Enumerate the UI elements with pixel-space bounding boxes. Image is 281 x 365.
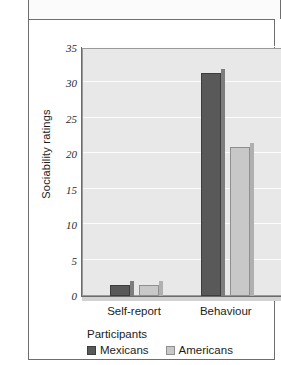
legend-item-americans: Americans (166, 344, 233, 356)
y-axis-tick-label: 20 (51, 149, 77, 160)
bar-side-face (159, 285, 163, 296)
y-axis-tick-label: 30 (51, 78, 77, 89)
legend-entries: MexicansAmericans (87, 344, 272, 356)
gridline (83, 46, 281, 47)
figure-top-strip-fill (29, 0, 280, 19)
bar-body (230, 147, 250, 296)
bar-americans-behaviour (230, 147, 250, 296)
legend-item-mexicans: Mexicans (87, 344, 149, 356)
bar-side-face (250, 147, 254, 296)
bar-body (201, 73, 221, 296)
legend-label-americans: Americans (179, 344, 233, 356)
bar-top-face (130, 281, 134, 285)
bar-side-face (221, 73, 225, 296)
y-axis-tick-label: 15 (51, 185, 77, 196)
y-axis-tick-label: 5 (51, 256, 77, 267)
figure-top-strip (28, 0, 281, 19)
legend-swatch-americans (166, 346, 175, 355)
bar-top-face (250, 143, 254, 147)
bar-body (110, 285, 130, 296)
figure-root: 05101520253035 Sociability ratings Self-… (0, 0, 281, 365)
x-axis-baseline (81, 296, 281, 297)
bar-side-face (130, 285, 134, 296)
bar-americans-self-report (139, 285, 159, 296)
y-axis-tick-label: 10 (51, 220, 77, 231)
bar-body (139, 285, 159, 296)
y-axis-title: Sociability ratings (40, 74, 52, 234)
x-axis-label-behaviour: Behaviour (176, 305, 276, 317)
bar-top-face (159, 281, 163, 285)
y-axis-tick-label: 0 (51, 291, 77, 302)
bars-layer (82, 48, 281, 296)
bar-mexicans-self-report (110, 285, 130, 296)
x-axis-tick-labels: Self-reportBehaviour (82, 305, 281, 321)
bar-mexicans-behaviour (201, 73, 221, 296)
legend-title: Participants (87, 328, 272, 340)
legend-swatch-mexicans (87, 346, 96, 355)
chart-figure-frame: 05101520253035 Sociability ratings Self-… (28, 19, 275, 360)
y-axis-tick-label: 25 (51, 114, 77, 125)
legend: Participants MexicansAmericans (87, 328, 272, 356)
bar-top-face (221, 69, 225, 73)
y-axis-tick-label: 35 (51, 43, 77, 54)
legend-label-mexicans: Mexicans (100, 344, 149, 356)
x-axis-label-self-report: Self-report (84, 305, 184, 317)
